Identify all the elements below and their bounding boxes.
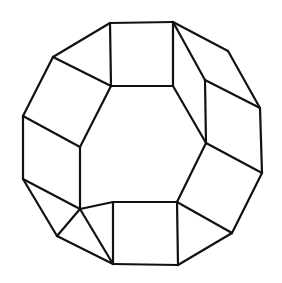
edge-line [206, 143, 262, 173]
edge-line [177, 202, 178, 265]
edge-line [177, 202, 232, 233]
edge-line [205, 80, 206, 143]
edge-line [80, 202, 113, 209]
edge-line [23, 57, 53, 116]
edge-line [23, 116, 80, 147]
edge-line [110, 23, 111, 86]
edge-line [173, 86, 206, 143]
edge-line [110, 22, 173, 23]
edge-line [260, 108, 262, 173]
edge-line [232, 173, 262, 233]
edge-line [113, 264, 178, 265]
polyhedron-diagram [0, 0, 282, 283]
edge-line [80, 86, 111, 147]
edge-line [178, 233, 232, 265]
edge-line [57, 209, 80, 236]
edge-line [53, 23, 110, 57]
edge-line [53, 57, 111, 86]
edge-line [177, 143, 206, 202]
